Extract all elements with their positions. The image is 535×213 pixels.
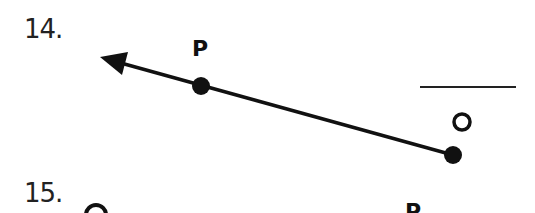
- ray-line: [110, 60, 453, 155]
- problem-15-p-label: P: [405, 199, 421, 213]
- problem-14-ray-figure: [0, 0, 535, 213]
- point-o-dot: [444, 146, 462, 164]
- problem-15-number: 15.: [24, 178, 62, 208]
- point-o-label-glyph: [454, 114, 470, 130]
- point-p-dot: [192, 77, 210, 95]
- problem-15-o-label-glyph: [86, 205, 106, 213]
- arrowhead-icon: [100, 52, 128, 75]
- point-p-label: P: [192, 36, 208, 61]
